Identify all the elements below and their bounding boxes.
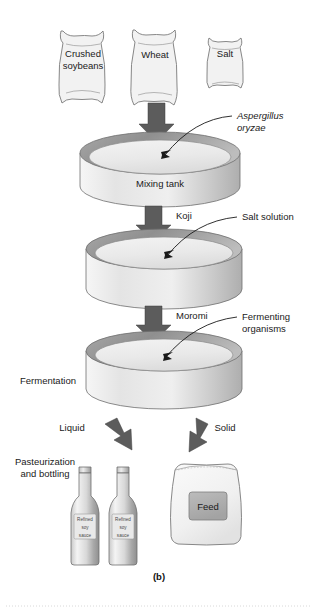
soy-sauce-bottle-2: Refined soy sauce [109, 467, 137, 565]
soy-sauce-bottle-1-label-line2: soy [81, 525, 89, 530]
soy-sauce-bottle-1-label-line3: sauce [79, 533, 92, 538]
mixing-tank-label: Mixing tank [136, 178, 184, 189]
feed-bag: Feed [171, 464, 242, 545]
flow-label-liquid: Liquid [59, 422, 84, 433]
koji-tank [86, 229, 242, 309]
bag-wheat-label: Wheat [141, 49, 169, 60]
output-label-pasteurization-line2: and bottling [20, 468, 69, 479]
callout-fermenting-organisms-line1: Fermenting [242, 311, 290, 322]
soy-sauce-bottle-2-label-line3: sauce [117, 533, 130, 538]
output-label-pasteurization-line1: Pasteurization [15, 456, 75, 467]
bag-crushed-soybeans: Crushed soybeans [59, 31, 105, 103]
flow-label-koji: Koji [176, 210, 192, 221]
bag-crushed-soybeans-label-line1: Crushed [65, 48, 101, 59]
soy-sauce-production-diagram: Crushed soybeans Wheat Salt Mixing tank … [0, 0, 318, 615]
callout-aspergillus-line2: oryzae [237, 122, 266, 133]
callout-salt-solution-label: Salt solution [242, 211, 294, 222]
soy-sauce-bottle-1: Refined soy sauce [71, 467, 99, 565]
flow-label-solid: Solid [214, 422, 235, 433]
flow-label-moromi: Moromi [176, 310, 208, 321]
callout-fermenting-organisms-line2: organisms [242, 323, 286, 334]
soy-sauce-bottle-1-label-line1: Refined [77, 517, 93, 522]
soy-sauce-bottle-2-label-line1: Refined [115, 517, 131, 522]
arrow-solid: Solid [189, 418, 236, 452]
arrow-liquid: Liquid [59, 418, 132, 450]
figure-caption: (b) [153, 571, 165, 582]
soy-sauce-bottle-2-label-line2: soy [119, 525, 127, 530]
bag-salt-label: Salt [217, 48, 234, 59]
bag-salt: Salt [207, 38, 244, 88]
fermentation-tank [86, 331, 242, 409]
bag-crushed-soybeans-label-line2: soybeans [63, 60, 104, 71]
callout-aspergillus-line1: Aspergillus [236, 110, 284, 121]
bag-wheat: Wheat [131, 30, 177, 105]
mixing-tank: Mixing tank [80, 132, 240, 207]
stage-label-fermentation: Fermentation [20, 375, 76, 386]
feed-bag-label: Feed [197, 501, 219, 512]
